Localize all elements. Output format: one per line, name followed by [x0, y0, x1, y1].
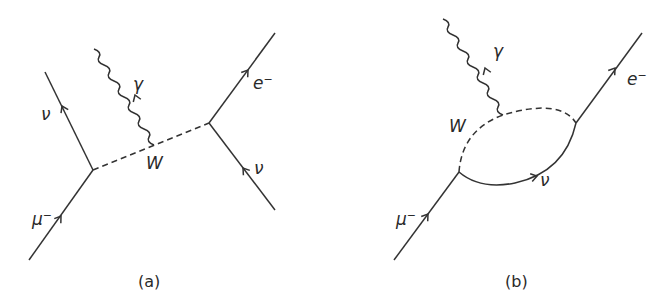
label-w-boson: W [146, 155, 163, 172]
label-electron-symbol: e [627, 69, 637, 89]
feynman-diagrams-svg [0, 0, 669, 305]
photon-wavy-line [94, 49, 154, 145]
neutrino-out-line [45, 72, 93, 170]
label-photon: γ [493, 43, 503, 60]
label-electron-charge: − [263, 73, 272, 86]
label-photon: γ [133, 76, 143, 93]
label-muon-charge: − [43, 209, 52, 222]
label-muon-symbol: μ [396, 209, 407, 229]
caption-b: (b) [505, 274, 528, 290]
feynman-figure: ν μ− γ W e− ν (a) W γ e− ν μ− (b) [0, 0, 669, 305]
label-electron: e− [253, 74, 273, 92]
label-neutrino-out: ν [41, 106, 51, 123]
label-electron: e− [627, 70, 647, 88]
caption-a: (a) [138, 274, 160, 290]
neutrino-in-line [209, 123, 275, 210]
label-electron-symbol: e [253, 73, 263, 93]
arrow-icon [481, 67, 491, 75]
label-muon-in: μ− [396, 210, 416, 228]
label-muon-charge: − [407, 209, 416, 222]
label-neutrino-in: ν [254, 160, 264, 177]
label-w-boson: W [449, 118, 466, 135]
arrow-icon [131, 94, 141, 102]
label-muon-in: μ− [32, 210, 52, 228]
panel-a-diagram [29, 33, 275, 260]
neutrino-loop-arc [459, 123, 576, 185]
label-electron-charge: − [637, 69, 646, 82]
label-neutrino-loop: ν [540, 172, 550, 189]
w-loop-dashed-arc [459, 108, 576, 172]
photon-wavy-line [443, 19, 503, 115]
label-muon-symbol: μ [32, 209, 43, 229]
panel-b-diagram [394, 19, 642, 260]
